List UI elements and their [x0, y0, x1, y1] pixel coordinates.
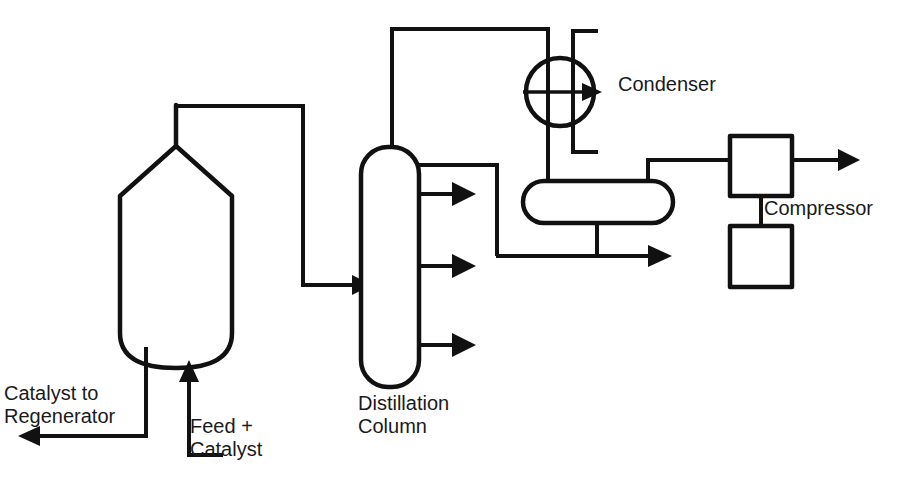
- compressor-lower-stage-box: [730, 226, 792, 287]
- condenser-label: Condenser: [618, 73, 716, 96]
- feed-plus-catalyst-label: Feed + Catalyst: [190, 415, 262, 461]
- drum-gas-to-compressor-line: [648, 160, 731, 181]
- compressor-upper-stage-box: [730, 136, 792, 196]
- reactor-vessel: [120, 105, 232, 368]
- column-side-draw-1-arrowhead-icon: [452, 182, 476, 206]
- column-side-draw-3-arrowhead-icon: [452, 333, 476, 357]
- column-side-draw-2-arrowhead-icon: [452, 254, 476, 278]
- distillation-column-label: Distillation Column: [358, 392, 449, 438]
- drum-bottoms-arrowhead-icon: [648, 245, 672, 267]
- reflux-drum-vessel: [523, 181, 673, 223]
- compressor-label: Compressor: [764, 197, 873, 220]
- catalyst-to-regenerator-label: Catalyst to Regenerator: [4, 382, 115, 428]
- reflux-return-line: [419, 165, 497, 256]
- process-flow-diagram: Condenser Compressor Distillation Column…: [0, 0, 897, 484]
- catalyst-to-regenerator-arrowhead-icon: [18, 426, 40, 446]
- compressor-discharge-arrowhead-icon: [838, 149, 860, 171]
- distillation-column-vessel: [361, 147, 419, 387]
